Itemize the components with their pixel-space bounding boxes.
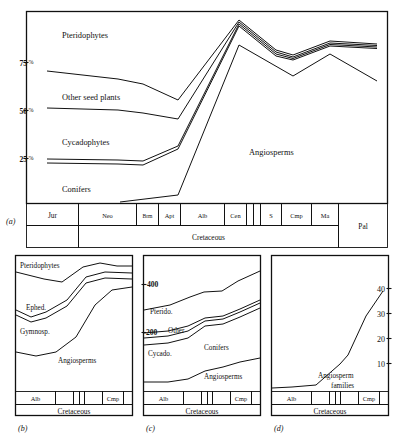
panel-b-timescale: Alb Cmp Cretaceous xyxy=(16,392,133,416)
y-tick-label-25: 25 xyxy=(19,155,27,164)
panel-a-timescale: Jur Neo Brm Apt Alb Cen S Cmp Ma Pal Cre… xyxy=(27,204,388,248)
panel-d-tick-label-10: 10 xyxy=(377,360,385,369)
panel-c-id: (c) xyxy=(146,424,155,433)
panel-d-stage-cell-3 xyxy=(330,392,336,405)
panel-d-tick-label-20: 20 xyxy=(377,335,385,344)
panel-b-label-gymnosp: Gymnosp. xyxy=(20,328,50,336)
panel-a: 75 % 50 % 25 % Pteridophytes Other seed … xyxy=(6,12,388,248)
panel-c-stage-cell-7 xyxy=(252,392,261,405)
y-tick-percent-50: % xyxy=(29,107,34,113)
panel-d-stage-label-cmp: Cmp xyxy=(363,395,375,402)
panel-a-label-cycadophytes: Cycadophytes xyxy=(62,138,109,147)
y-tick-percent-75: % xyxy=(29,59,34,65)
panel-d-stage-cell-2 xyxy=(312,392,330,405)
panel-c-period-label: Cretaceous xyxy=(186,407,219,416)
panel-c-stage-cell-2 xyxy=(184,392,202,405)
panel-d-stage-cell-5 xyxy=(341,392,359,405)
panel-b-stage-cell-2 xyxy=(56,392,74,405)
panel-b-label-ephed: Ephed. xyxy=(26,304,46,312)
panel-d-label-angiosperm: Angiosperm xyxy=(318,372,354,380)
panel-a-label-pteridophytes: Pteridophytes xyxy=(62,31,108,40)
curve-total-c xyxy=(144,271,260,310)
panel-b-label-pteridophytes: Pteridophytes xyxy=(20,262,60,270)
panel-b: Pteridophytes Ephed. Gymnosp. Angiosperm… xyxy=(16,256,133,434)
panel-c-stage-cell-5 xyxy=(213,392,231,405)
stage-label-brm: Brm xyxy=(143,213,154,219)
curve-angiosperms-c xyxy=(144,358,260,382)
panel-c-stage-cell-4 xyxy=(208,392,213,405)
panel-c-label-other: Other xyxy=(168,327,185,335)
stage-label-ma: Ma xyxy=(321,212,330,219)
panel-c-timescale: Alb Cmp Cretaceous xyxy=(144,392,261,416)
stage-label-neo: Neo xyxy=(102,212,113,219)
stage-label-pal: Pal xyxy=(358,222,367,231)
panel-a-label-other-seed-plants: Other seed plants xyxy=(62,93,120,102)
panel-c-label-angiosperms: Angiosperms xyxy=(204,373,243,381)
panel-a-label-angiosperms: Angiosperms xyxy=(249,148,294,157)
figure-plant-diversity-cretaceous: 75 % 50 % 25 % Pteridophytes Other seed … xyxy=(0,0,401,436)
y-tick-label-75: 75 xyxy=(19,59,27,68)
panel-c-curves xyxy=(144,271,260,382)
panel-b-stage-cell-5 xyxy=(85,392,103,405)
panel-b-stage-label-cmp: Cmp xyxy=(107,395,119,402)
panel-d-timescale: Alb Cmp Cretaceous xyxy=(272,392,389,416)
panel-c-stage-cell-3 xyxy=(202,392,208,405)
stage-label-apt: Apt xyxy=(165,212,175,219)
panel-c-label-pterido: Pterido. xyxy=(150,308,173,316)
panel-b-period-label: Cretaceous xyxy=(58,407,91,416)
y-tick-percent-25: % xyxy=(29,155,34,161)
panel-a-label-conifers: Conifers xyxy=(62,185,91,194)
panel-d-label-families: families xyxy=(331,382,354,390)
panel-b-stage-cell-7 xyxy=(124,392,133,405)
stage-cell-con xyxy=(254,204,261,226)
stage-cell-tur xyxy=(247,204,254,226)
panel-d-tick-label-30: 30 xyxy=(377,310,385,319)
stage-label-jur: Jur xyxy=(48,211,58,220)
curve-angiosperms-a xyxy=(120,45,377,202)
panel-d-stage-label-alb: Alb xyxy=(287,395,297,402)
stage-label-cen: Cen xyxy=(230,212,241,219)
period-label-cretaceous: Cretaceous xyxy=(192,233,225,242)
period-cell-jurassic xyxy=(27,226,79,248)
panel-d: 40 30 20 10 Angiosperm families Alb Cmp … xyxy=(272,256,392,434)
stage-label-cmp: Cmp xyxy=(290,212,302,219)
panel-a-plot-frame xyxy=(27,12,388,204)
panel-b-id: (b) xyxy=(18,424,28,433)
stage-label-alb: Alb xyxy=(198,212,208,219)
panel-a-id: (a) xyxy=(6,217,16,226)
panel-b-stage-label-alb: Alb xyxy=(31,395,41,402)
panel-c-label-cycado: Cycado. xyxy=(148,350,172,358)
y-tick-label-50: 50 xyxy=(19,107,27,116)
panel-d-period-label: Cretaceous xyxy=(314,407,347,416)
panel-b-stage-cell-3 xyxy=(74,392,80,405)
panel-d-id: (d) xyxy=(274,424,284,433)
stage-label-s: S xyxy=(269,212,273,219)
panel-c-tick-label-400: 400 xyxy=(147,280,159,289)
panel-c-label-conifers: Conifers xyxy=(204,344,229,352)
panel-c-stage-label-alb: Alb xyxy=(159,395,169,402)
panel-a-curves xyxy=(47,20,377,202)
panel-b-label-angiosperms: Angiosperms xyxy=(58,357,97,365)
panel-d-stage-cell-4 xyxy=(336,392,341,405)
panel-b-stage-cell-4 xyxy=(80,392,85,405)
panel-d-stage-cell-7 xyxy=(380,392,389,405)
panel-c-stage-label-cmp: Cmp xyxy=(235,395,247,402)
panel-d-tick-label-40: 40 xyxy=(377,285,385,294)
curve-gymnosp-b xyxy=(16,278,132,322)
panel-c: 400 200 Pterido. Other Cycado. Conifers … xyxy=(142,256,261,434)
